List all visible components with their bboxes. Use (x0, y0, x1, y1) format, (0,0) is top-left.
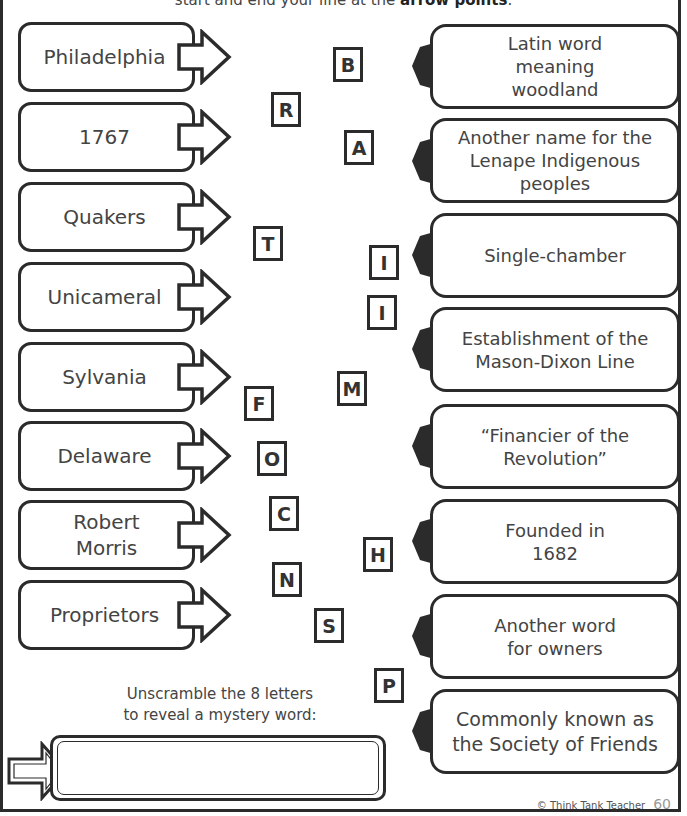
letter-box: F (244, 386, 274, 421)
letter-char: H (370, 544, 386, 566)
term-box-5[interactable]: Sylvania (18, 342, 195, 412)
letter-box: O (257, 441, 287, 476)
term-label: 1767 (79, 124, 130, 150)
footer: © Think Tank Teacher60 (537, 796, 671, 812)
definition-label: Founded in 1682 (503, 519, 607, 565)
letter-box: T (253, 226, 283, 261)
letter-box: B (333, 47, 363, 82)
term-box-7[interactable]: Robert Morris (18, 500, 195, 570)
letter-box: P (374, 668, 404, 703)
letter-box: R (271, 92, 301, 127)
term-label: Philadelphia (44, 44, 166, 70)
letter-char: A (352, 137, 367, 159)
definition-label: Another word for owners (483, 614, 627, 660)
instructions-suffix: . (507, 0, 512, 9)
term-label: Unicameral (48, 284, 162, 310)
letter-box: I (367, 295, 397, 330)
definition-label: Single-chamber (484, 244, 626, 267)
term-label: Sylvania (62, 364, 147, 390)
unscramble-prompt: Unscramble the 8 letters to reveal a mys… (100, 684, 340, 726)
letter-char: S (322, 615, 336, 637)
arrow-right-icon[interactable] (176, 507, 232, 563)
definition-box-5[interactable]: “Financier of the Revolution” (430, 404, 680, 489)
definition-box-8[interactable]: Commonly known as the Society of Friends (430, 689, 680, 774)
arrow-right-icon[interactable] (176, 349, 232, 405)
term-box-6[interactable]: Delaware (18, 421, 195, 491)
definition-box-7[interactable]: Another word for owners (430, 594, 680, 679)
definition-label: Establishment of the Mason-Dixon Line (455, 327, 655, 373)
arrow-right-icon[interactable] (176, 269, 232, 325)
instructions-bold: arrow points (400, 0, 507, 9)
letter-box: M (337, 371, 367, 406)
arrow-right-icon[interactable] (176, 428, 232, 484)
term-label: Quakers (63, 204, 146, 230)
letter-char: B (341, 54, 355, 76)
term-box-3[interactable]: Quakers (18, 182, 195, 252)
unscramble-line-2: to reveal a mystery word: (100, 705, 340, 726)
letter-box: C (269, 496, 299, 531)
mystery-word-box[interactable] (50, 735, 386, 801)
unscramble-line-1: Unscramble the 8 letters (100, 684, 340, 705)
letter-char: I (380, 252, 387, 274)
arrow-right-icon[interactable] (176, 587, 232, 643)
term-label: Robert Morris (51, 509, 162, 561)
term-label: Proprietors (50, 602, 159, 628)
letter-char: T (262, 233, 275, 255)
term-box-8[interactable]: Proprietors (18, 580, 195, 650)
definition-box-4[interactable]: Establishment of the Mason-Dixon Line (430, 307, 680, 392)
arrow-right-icon[interactable] (176, 29, 232, 85)
answer-area (6, 735, 386, 801)
definition-box-2[interactable]: Another name for the Lenape Indigenous p… (430, 118, 680, 203)
definition-box-3[interactable]: Single-chamber (430, 213, 680, 298)
mystery-word-input[interactable] (63, 746, 373, 790)
letter-box: I (369, 245, 399, 280)
letter-char: O (264, 448, 280, 470)
definition-box-6[interactable]: Founded in 1682 (430, 499, 680, 584)
letter-char: M (343, 378, 362, 400)
letter-char: N (279, 569, 295, 591)
letter-char: C (277, 503, 291, 525)
letter-char: P (382, 675, 396, 697)
copyright-text: © Think Tank Teacher (537, 800, 645, 811)
page-number: 60 (653, 796, 671, 812)
term-box-4[interactable]: Unicameral (18, 262, 195, 332)
definition-label: “Financier of the Revolution” (477, 424, 633, 470)
arrow-right-icon[interactable] (176, 109, 232, 165)
letter-box: A (344, 130, 374, 165)
instructions: start and end your line at the arrow poi… (0, 0, 687, 9)
definition-label: Latin word meaning woodland (473, 32, 637, 101)
definition-label: Commonly known as the Society of Friends (447, 707, 663, 757)
definition-label: Another name for the Lenape Indigenous p… (451, 126, 659, 195)
term-box-1[interactable]: Philadelphia (18, 22, 195, 92)
letter-box: N (272, 562, 302, 597)
letter-box: S (314, 608, 344, 643)
definition-box-1[interactable]: Latin word meaning woodland (430, 24, 680, 109)
letter-char: F (253, 393, 266, 415)
term-box-2[interactable]: 1767 (18, 102, 195, 172)
instructions-text: start and end your line at the (175, 0, 400, 9)
letter-char: I (378, 302, 385, 324)
letter-char: R (279, 99, 294, 121)
letter-box: H (363, 537, 393, 572)
term-label: Delaware (57, 443, 151, 469)
arrow-right-icon[interactable] (176, 189, 232, 245)
